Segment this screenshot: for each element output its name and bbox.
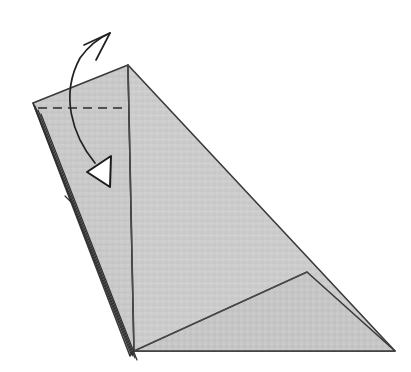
origami-figure — [0, 0, 411, 372]
arrow-tip-barbs — [84, 33, 110, 60]
origami-diagram-root — [0, 0, 411, 372]
